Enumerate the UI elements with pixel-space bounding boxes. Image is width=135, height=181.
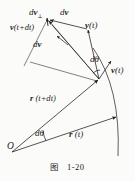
- label-dv-perp: dv⊥: [29, 8, 43, 19]
- construction-line-apex: [52, 25, 99, 79]
- r-tdt-arg: (t+d: [33, 93, 50, 103]
- label-v-t-top: v(t): [85, 21, 98, 30]
- caption-number: 1-20: [67, 162, 85, 172]
- label-r-t-plus-dt: r (t+dt): [30, 94, 56, 103]
- v-t-top-arg: (t): [89, 20, 98, 30]
- dv-perp-subscript: ⊥: [38, 13, 43, 19]
- v-t-right-arg: (t): [115, 65, 124, 75]
- label-dv-mid: dv: [33, 40, 42, 49]
- r-t-arg: (t): [73, 129, 84, 139]
- label-r-t: r (t): [69, 130, 83, 139]
- dv-top-v: v: [65, 7, 69, 17]
- dtheta-bot-symbol: θ: [40, 128, 44, 138]
- figure-caption: 图1-20: [0, 160, 135, 172]
- label-dtheta-bottom: dθ: [35, 129, 44, 138]
- dv-mid-v: v: [38, 39, 42, 49]
- delta-v-vector-top: [50, 20, 87, 29]
- dtheta-top-symbol: θ: [95, 54, 99, 64]
- angle-arc-dtheta-p2: [93, 70, 100, 73]
- position-vector-r-t: [12, 117, 116, 152]
- caption-label: 图: [50, 162, 60, 172]
- label-v-t-plus-dt: v(t+dt): [10, 23, 34, 32]
- r-tdt-arg-tail: t): [51, 93, 56, 103]
- v-tdt-arg-tail: t): [29, 22, 34, 32]
- delta-v-perp-vector: [47, 18, 48, 26]
- label-origin-O: O: [7, 142, 14, 152]
- velocity-vector-v-t-right: [99, 61, 111, 79]
- label-v-t-right: v(t): [111, 66, 124, 75]
- label-dtheta-top: dθ: [90, 55, 99, 64]
- v-tdt-arg: (t+d: [14, 22, 29, 32]
- position-vector-r-t-plus-dt: [12, 80, 98, 152]
- label-dv-top: dv: [60, 8, 69, 17]
- physics-figure: dv⊥ dv v(t+dt) v(t) dv dθ v(t) r (t+dt) …: [0, 0, 135, 181]
